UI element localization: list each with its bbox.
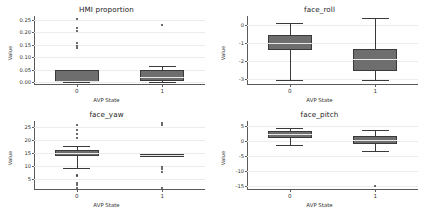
whisker-cap xyxy=(362,130,389,131)
panel-face-yaw: face_yaw Value AVP State 51015202501 xyxy=(0,105,213,210)
y-tick-label: 0 xyxy=(241,22,244,28)
whisker-line xyxy=(375,18,376,49)
x-tick-mark xyxy=(375,190,376,192)
plot-area: 51015202501 xyxy=(34,121,205,190)
y-tick-mark xyxy=(245,171,247,172)
whisker-cap xyxy=(362,151,389,152)
y-tick-label: -3 xyxy=(239,76,244,82)
y-tick-mark xyxy=(32,140,34,141)
outlier-point xyxy=(76,30,78,32)
y-axis-label: Value xyxy=(7,45,13,59)
x-tick-mark xyxy=(162,190,163,192)
whisker-cap xyxy=(276,80,303,81)
y-tick-label: 5 xyxy=(241,123,244,129)
y-axis-line xyxy=(34,16,35,85)
whisker-line xyxy=(290,23,291,35)
median-line xyxy=(55,81,99,82)
y-gridline xyxy=(34,166,205,167)
y-gridline xyxy=(34,32,205,33)
y-tick-mark xyxy=(32,32,34,33)
x-tick-label: 1 xyxy=(373,193,377,199)
y-gridline xyxy=(34,57,205,58)
whisker-cap xyxy=(63,168,90,169)
y-tick-label: 0.25 xyxy=(19,17,31,23)
outlier-point xyxy=(76,129,78,131)
y-gridline xyxy=(34,179,205,180)
plot-area: 0-1-2-301 xyxy=(247,16,418,85)
outlier-point xyxy=(76,45,78,47)
median-line xyxy=(140,77,184,78)
outlier-point xyxy=(76,47,78,49)
whisker-cap xyxy=(276,23,303,24)
x-axis-line xyxy=(34,84,205,85)
whisker-cap xyxy=(362,18,389,19)
x-tick-label: 1 xyxy=(160,193,164,199)
x-tick-label: 1 xyxy=(160,88,164,94)
median-line xyxy=(268,43,312,44)
y-tick-mark xyxy=(245,141,247,142)
x-axis-label: AVP State xyxy=(213,202,426,208)
y-gridline xyxy=(247,171,418,172)
whisker-cap xyxy=(63,146,90,147)
median-line xyxy=(140,155,184,156)
y-gridline xyxy=(247,79,418,80)
panel-face-roll: face_roll Value AVP State 0-1-2-301 xyxy=(213,0,426,105)
y-axis-line xyxy=(247,16,248,85)
outlier-point xyxy=(76,137,78,139)
outlier-point xyxy=(76,42,78,44)
x-axis-line xyxy=(247,84,418,85)
y-tick-label: 0.05 xyxy=(19,67,31,73)
x-tick-label: 0 xyxy=(75,88,79,94)
y-tick-mark xyxy=(245,25,247,26)
box xyxy=(268,35,312,50)
outlier-point xyxy=(76,124,78,126)
y-tick-label: 0.10 xyxy=(19,54,31,60)
y-tick-label: -10 xyxy=(236,168,244,174)
outlier-point xyxy=(76,187,78,189)
whisker-cap xyxy=(276,145,303,146)
y-gridline xyxy=(34,20,205,21)
y-axis-label: Value xyxy=(7,150,13,164)
y-tick-mark xyxy=(32,57,34,58)
y-tick-mark xyxy=(245,186,247,187)
outlier-point xyxy=(76,133,78,135)
x-tick-mark xyxy=(375,85,376,87)
median-line xyxy=(353,140,397,141)
y-tick-label: 20 xyxy=(24,137,31,143)
x-tick-mark xyxy=(162,85,163,87)
y-tick-label: -15 xyxy=(236,183,244,189)
outlier-point xyxy=(161,171,163,173)
outlier-point xyxy=(76,27,78,29)
y-tick-label: 0.20 xyxy=(19,29,31,35)
x-tick-mark xyxy=(290,85,291,87)
y-tick-mark xyxy=(32,82,34,83)
y-gridline xyxy=(34,45,205,46)
x-tick-label: 0 xyxy=(75,193,79,199)
y-tick-mark xyxy=(32,153,34,154)
y-gridline xyxy=(34,127,205,128)
box xyxy=(55,70,99,82)
y-tick-mark xyxy=(245,61,247,62)
y-tick-label: 15 xyxy=(24,150,31,156)
y-gridline xyxy=(247,25,418,26)
outlier-point xyxy=(161,124,163,126)
x-tick-label: 0 xyxy=(288,88,292,94)
y-gridline xyxy=(247,126,418,127)
y-tick-label: 10 xyxy=(24,163,31,169)
whisker-cap xyxy=(149,66,176,67)
y-gridline xyxy=(34,140,205,141)
plot-area: 0.000.050.100.150.200.2501 xyxy=(34,16,205,85)
x-tick-mark xyxy=(77,85,78,87)
panel-face-pitch: face_pitch Value AVP State 50-5-10-1501 xyxy=(213,105,426,210)
y-tick-label: 0.15 xyxy=(19,42,31,48)
outlier-point xyxy=(161,166,163,168)
x-tick-label: 0 xyxy=(288,193,292,199)
outlier-point xyxy=(76,174,78,176)
whisker-line xyxy=(375,71,376,80)
y-gridline xyxy=(247,186,418,187)
y-tick-mark xyxy=(32,127,34,128)
y-tick-mark xyxy=(32,179,34,180)
outlier-point xyxy=(374,185,376,187)
y-tick-mark xyxy=(32,45,34,46)
outlier-point xyxy=(76,175,78,177)
